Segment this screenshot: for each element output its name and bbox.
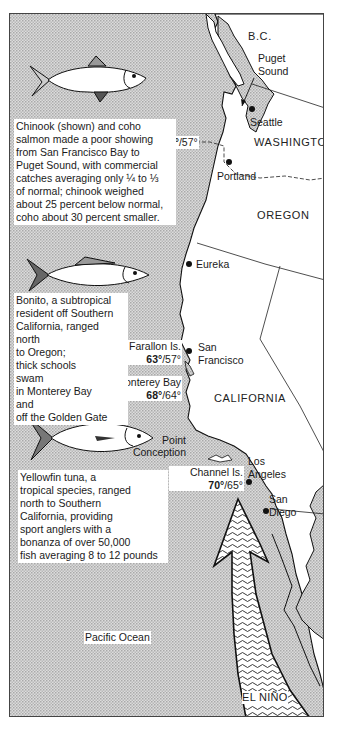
- caption-line: coho about 30 percent smaller.: [16, 211, 174, 224]
- temp-channel: Channel Is. 70°/65°: [169, 466, 244, 491]
- caption-line: in Monterey Bay: [16, 385, 126, 398]
- sd-line-1: San: [269, 493, 296, 506]
- temp-low: /57°: [162, 353, 181, 365]
- caption-line: from San Francisco Bay to: [16, 146, 174, 159]
- caption-line: north: [16, 333, 126, 346]
- caption-line: Chinook (shown) and coho: [16, 120, 174, 133]
- temp-high: 70°: [208, 479, 224, 491]
- label-el-nino: EL NIÑO: [242, 691, 288, 704]
- caption-line: to Oregon;: [16, 346, 126, 359]
- label-san-diego: San Diego: [269, 493, 296, 518]
- caption-line: Bonito, a subtropical: [16, 294, 126, 307]
- city-dot-los-angeles: [246, 479, 252, 485]
- temp-high: 63°: [146, 353, 162, 365]
- caption-line: tropical species, ranged: [20, 484, 166, 497]
- temp-low: /65°: [224, 479, 243, 491]
- temp-high: 68°: [146, 389, 162, 401]
- caption-line: fish averaging 8 to 12 pounds: [20, 549, 166, 562]
- caption-line: and: [16, 398, 126, 411]
- caption-line: of normal; chinook weighed: [16, 185, 174, 198]
- label-eureka: Eureka: [196, 258, 229, 271]
- la-line-2: Angeles: [248, 468, 286, 481]
- caption-line: salmon made a poor showing: [16, 133, 174, 146]
- caption-line: swam: [16, 372, 126, 385]
- caption-tuna: Yellowfin tuna, a tropical species, rang…: [18, 470, 168, 563]
- caption-line: California, providing: [20, 510, 166, 523]
- caption-line: catches averaging only ¼ to ⅓: [16, 172, 174, 185]
- sd-line-2: Diego: [269, 506, 296, 519]
- caption-line: Yellowfin tuna, a: [20, 471, 166, 484]
- caption-line: sport anglers with a: [20, 523, 166, 536]
- salmon-icon: [28, 52, 153, 112]
- temp-label: Channel Is.: [169, 466, 244, 479]
- caption-line: Puget Sound, with commercial: [16, 159, 174, 172]
- la-line-1: Los: [248, 455, 286, 468]
- caption-line: thick schools: [16, 359, 126, 372]
- sf-line-1: San: [198, 341, 244, 354]
- label-los-angeles: Los Angeles: [248, 455, 286, 480]
- city-dot-seattle: [249, 106, 255, 112]
- label-seattle: Seattle: [250, 116, 283, 129]
- caption-line: resident off Southern: [16, 307, 126, 320]
- caption-line: bonanza of over 50,000: [20, 536, 166, 549]
- temp-low: /64°: [162, 389, 181, 401]
- label-portland: Portland: [217, 170, 256, 183]
- map-frame: B.C. WASHINGTON OREGON CALIFORNIA Pacifi…: [9, 13, 324, 717]
- caption-line: California, ranged: [16, 320, 126, 333]
- caption-line: about 25 percent below normal,: [16, 198, 174, 211]
- sf-line-2: Francisco: [198, 354, 244, 367]
- caption-bonito: Bonito, a subtropical resident off South…: [14, 293, 128, 425]
- city-dot-eureka: [186, 261, 192, 267]
- city-dot-san-francisco: [186, 348, 192, 354]
- city-dot-san-diego: [263, 508, 269, 514]
- label-san-francisco: San Francisco: [198, 341, 244, 366]
- caption-line: off the Golden Gate: [16, 411, 126, 424]
- city-dot-portland: [226, 159, 232, 165]
- temp-low: /57°: [179, 136, 198, 148]
- caption-salmon: Chinook (shown) and coho salmon made a p…: [14, 119, 176, 225]
- caption-line: north to Southern: [20, 497, 166, 510]
